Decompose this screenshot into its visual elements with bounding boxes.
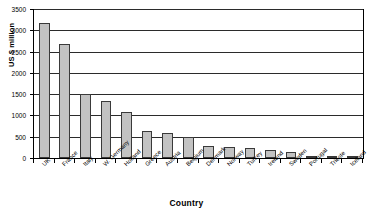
y-axis-tick-label: 0 bbox=[0, 155, 26, 162]
y-axis-tick-label: 2500 bbox=[0, 48, 26, 55]
x-axis-title: Country bbox=[0, 198, 373, 208]
bar bbox=[101, 101, 112, 158]
bar bbox=[80, 94, 91, 158]
bar bbox=[59, 44, 70, 158]
bar bbox=[121, 112, 132, 158]
y-axis-tick-label: 3500 bbox=[0, 6, 26, 13]
y-axis-tick-labels: 0500100015002000250030003500 bbox=[0, 0, 30, 165]
y-axis-tick-label: 1000 bbox=[0, 112, 26, 119]
bar bbox=[142, 131, 153, 158]
x-axis-category-labels: UKFranceItalyW. GermanyHollandGreeceAust… bbox=[33, 163, 363, 197]
y-axis-tick-label: 500 bbox=[0, 133, 26, 140]
y-axis-tick-label: 1500 bbox=[0, 91, 26, 98]
bar bbox=[39, 23, 50, 158]
y-axis-tick-label: 3000 bbox=[0, 27, 26, 34]
plot-area bbox=[33, 9, 364, 159]
bar-series bbox=[34, 9, 363, 158]
bar-chart: US $ million 050010001500200025003000350… bbox=[0, 0, 373, 218]
y-axis-tick-label: 2000 bbox=[0, 69, 26, 76]
